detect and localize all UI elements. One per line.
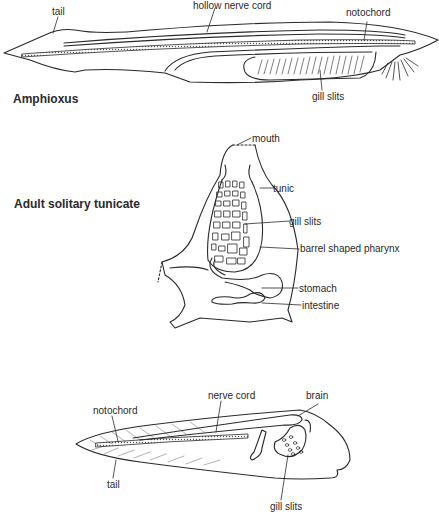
amphioxus-title: Amphioxus xyxy=(13,92,78,106)
tunicate-label-pharynx: barrel shaped pharynx xyxy=(300,243,400,254)
larva-label-brain: brain xyxy=(306,390,328,401)
tunicate-label-mouth: mouth xyxy=(252,133,280,144)
tunicate-drawing xyxy=(158,138,301,328)
tunicate-label-stomach: stomach xyxy=(299,283,337,294)
tunicate-label-tunic: tunic xyxy=(273,183,294,194)
chordate-diagram-artwork xyxy=(0,0,439,522)
amphioxus-label-notochord: notochord xyxy=(346,7,390,18)
amphioxus-label-gill-slits: gill slits xyxy=(312,91,344,102)
amphioxus-label-hollow-nerve-cord: hollow nerve cord xyxy=(193,0,271,11)
amphioxus-label-tail: tail xyxy=(52,6,65,17)
tunicate-label-intestine: intestine xyxy=(302,300,339,311)
larva-label-notochord: notochord xyxy=(93,405,137,416)
larva-label-gill-slits: gill slits xyxy=(270,501,302,512)
larva-label-nerve-cord: nerve cord xyxy=(208,390,255,401)
tunicate-title: Adult solitary tunicate xyxy=(14,197,140,211)
tunicate-label-gill-slits: gill slits xyxy=(289,216,321,227)
amphioxus-drawing xyxy=(4,8,438,90)
larva-label-tail: tail xyxy=(107,479,120,490)
